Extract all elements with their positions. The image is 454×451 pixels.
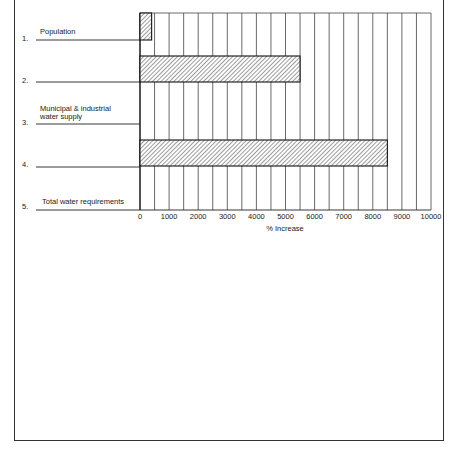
row-number-5: 5. (22, 203, 28, 211)
row-number-2: 2. (22, 77, 28, 85)
row-label-population: Population (40, 28, 75, 36)
x-tick-label: 0 (138, 212, 142, 221)
row-number-1: 1. (22, 35, 28, 43)
x-tick-label: 10000 (421, 212, 442, 221)
grid-lines (140, 13, 431, 210)
x-tick-label: 4000 (248, 212, 265, 221)
row-label-total-water: Total water requirements (42, 198, 124, 206)
bar-row-4 (140, 140, 387, 166)
row-number-3: 3. (22, 119, 28, 127)
bars (140, 13, 387, 166)
x-tick-label: 5000 (277, 212, 294, 221)
x-tick-label: 3000 (219, 212, 236, 221)
bar-chart (0, 0, 454, 451)
x-tick-label: 7000 (335, 212, 352, 221)
x-tick-label: 9000 (394, 212, 411, 221)
x-axis-label: % Increase (266, 224, 304, 233)
row-label-municipal-line2: water supply (40, 113, 82, 121)
bar-row-2 (140, 56, 300, 82)
row-number-4: 4. (22, 161, 28, 169)
x-tick-label: 2000 (190, 212, 207, 221)
x-tick-label: 6000 (306, 212, 323, 221)
bar-row-1 (140, 13, 152, 40)
x-tick-label: 8000 (364, 212, 381, 221)
x-tick-label: 1000 (161, 212, 178, 221)
